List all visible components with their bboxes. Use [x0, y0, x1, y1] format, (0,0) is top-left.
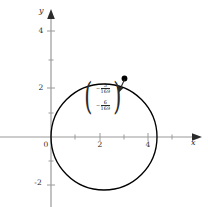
x-tick-label-2: 2 [95, 140, 105, 149]
vector-row-2-denominator: 169 [101, 106, 111, 111]
right-paren: ) [113, 82, 121, 112]
y-axis-label: y [39, 6, 44, 15]
vector-row-2: − 6 169 [96, 100, 110, 111]
vector-row-2-sign: − [96, 103, 100, 108]
x-tick-label-0: 0 [41, 140, 51, 149]
y-tick-label-2: 2 [36, 83, 46, 92]
y-axis-arrowhead [47, 9, 55, 19]
x-axis-label: x [191, 138, 196, 147]
vector-row-1-denominator: 169 [101, 89, 111, 94]
y-tick-label-4: 4 [36, 26, 46, 35]
x-tick-label-4: 4 [143, 140, 153, 149]
math-figure: y x 4 2 -2 0 2 4 ( − 5 169 − [0, 0, 208, 207]
left-paren: ( [84, 82, 92, 112]
vector-row-1-sign: − [96, 86, 100, 91]
vector-row-2-fraction: 6 169 [101, 100, 111, 111]
vector-row-1-fraction: 5 169 [101, 83, 111, 94]
vector-value-label: ( − 5 169 − 6 169 [84, 77, 122, 117]
y-tick-label-minus-2: -2 [31, 178, 45, 187]
vector-row-1: − 5 169 [96, 83, 110, 94]
